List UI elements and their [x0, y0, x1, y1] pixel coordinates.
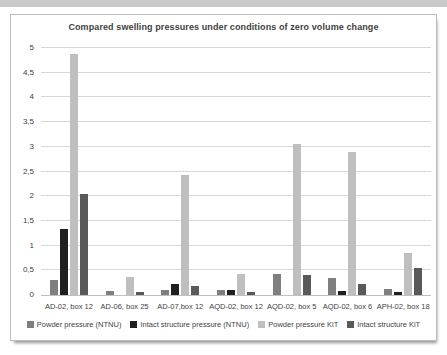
legend-marker-icon	[258, 321, 265, 328]
y-tick-label: 1	[11, 241, 34, 251]
y-tick-label: 5	[11, 43, 34, 53]
gridline	[41, 245, 431, 246]
y-tick-label: 1,5	[11, 216, 34, 226]
bar	[50, 280, 58, 295]
bar	[358, 284, 366, 295]
bar	[384, 289, 392, 295]
plot-area	[41, 48, 431, 295]
gridline	[41, 121, 431, 122]
legend-label: Intact structure KiT	[357, 320, 420, 329]
y-tick-label: 4	[11, 92, 34, 102]
gridline	[41, 269, 431, 270]
gridline	[41, 195, 431, 196]
x-axis-labels: AD-02, box 12AD-06, box 25AD-07,box 12AQ…	[41, 302, 431, 311]
y-tick-label: 0,5	[11, 265, 34, 275]
bar	[338, 291, 346, 295]
bar	[191, 286, 199, 295]
y-tick-label: 2	[11, 191, 34, 201]
gridline	[41, 47, 431, 48]
bar	[161, 290, 169, 295]
gridline	[41, 72, 431, 73]
y-tick-label: 2,5	[11, 167, 34, 177]
bar	[328, 278, 336, 295]
bar	[136, 292, 144, 295]
chart-frame: Compared swelling pressures under condit…	[10, 14, 437, 341]
bar	[303, 275, 311, 295]
gridline	[41, 146, 431, 147]
legend-label: Powder pressure KiT	[268, 320, 338, 329]
legend-item: Intact structure KiT	[347, 320, 420, 329]
x-axis-label: AD-06, box 25	[97, 302, 153, 311]
bar	[237, 274, 245, 295]
gridline	[41, 171, 431, 172]
x-axis-label: APH-02, box 18	[375, 302, 431, 311]
legend-item: Powder pressure KiT	[258, 320, 338, 329]
legend-item: Intact structure pressure (NTNU)	[130, 320, 249, 329]
bar	[247, 292, 255, 295]
y-tick-label: 3	[11, 142, 34, 152]
x-axis-line	[41, 295, 431, 296]
bar	[70, 54, 78, 295]
bar	[394, 292, 402, 295]
y-tick-label: 0	[11, 290, 34, 300]
y-tick-label: 4,5	[11, 68, 34, 78]
chart-title: Compared swelling pressures under condit…	[11, 22, 436, 32]
y-tick-label: 3,5	[11, 117, 34, 127]
bar	[80, 194, 88, 295]
bar	[171, 284, 179, 295]
bar	[414, 268, 422, 295]
bar	[217, 290, 225, 295]
legend-marker-icon	[347, 321, 354, 328]
legend-marker-icon	[27, 321, 34, 328]
y-axis: 00,511,522,533,544,55	[11, 48, 37, 295]
bar	[126, 277, 134, 295]
bar	[404, 253, 412, 295]
bar	[273, 274, 281, 295]
x-axis-label: AD-02, box 12	[41, 302, 97, 311]
bar	[60, 229, 68, 295]
window-edge-strip	[0, 0, 447, 7]
legend: Powder pressure (NTNU)Intact structure p…	[11, 320, 436, 329]
bar	[106, 291, 114, 295]
legend-item: Powder pressure (NTNU)	[27, 320, 122, 329]
legend-marker-icon	[130, 321, 137, 328]
x-axis-label: AD-07,box 12	[152, 302, 208, 311]
legend-label: Powder pressure (NTNU)	[37, 320, 122, 329]
x-axis-label: AQD-02, box 6	[320, 302, 376, 311]
gridline	[41, 96, 431, 97]
bar	[227, 290, 235, 295]
legend-label: Intact structure pressure (NTNU)	[140, 320, 249, 329]
x-axis-label: AQD-02, box 5	[264, 302, 320, 311]
bar	[348, 152, 356, 295]
x-axis-label: AQD-02, box 12	[208, 302, 264, 311]
gridline	[41, 220, 431, 221]
bar	[293, 144, 301, 295]
bar	[181, 175, 189, 295]
